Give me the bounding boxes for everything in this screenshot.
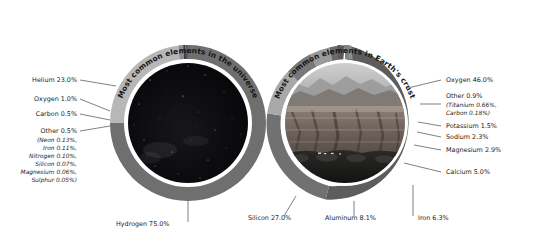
leader-oxygen bbox=[408, 80, 441, 88]
leader-magnesium bbox=[414, 145, 441, 150]
svg-text:Silicon 0.07%,: Silicon 0.07%, bbox=[35, 161, 77, 167]
leader-potassium bbox=[418, 122, 441, 126]
label-crust-calcium: Calcium 5.0% bbox=[446, 168, 490, 176]
label-crust-magnesium: Magnesium 2.9% bbox=[446, 146, 501, 154]
infographic-root: Most common elements in the universe Hel… bbox=[0, 0, 533, 237]
svg-text:Iron 0.11%,: Iron 0.11%, bbox=[43, 145, 77, 151]
leader-sodium bbox=[417, 132, 441, 137]
svg-text:Sulphur 0.05%): Sulphur 0.05%) bbox=[31, 177, 77, 184]
label-universe-other: Other 0.5% bbox=[41, 127, 77, 135]
leader-calcium bbox=[404, 163, 441, 172]
svg-text:(Neon 0.13%,: (Neon 0.13%, bbox=[37, 137, 77, 143]
svg-text:Carbon 0.18%): Carbon 0.18%) bbox=[446, 110, 490, 116]
universe-space-disc bbox=[128, 63, 248, 183]
label-universe-carbon: Carbon 0.5% bbox=[36, 110, 77, 118]
universe-chart: Most common elements in the universe Hel… bbox=[21, 45, 266, 228]
label-crust-aluminum: Aluminum 8.1% bbox=[325, 214, 376, 222]
leader-oxygen bbox=[80, 99, 110, 111]
label-crust-other: Other 0.9% bbox=[446, 92, 482, 100]
leader-other bbox=[80, 126, 110, 131]
label-universe-hydrogen: Hydrogen 75.0% bbox=[116, 220, 169, 228]
svg-text:Nitrogen 0.10%,: Nitrogen 0.10%, bbox=[29, 153, 77, 160]
label-crust-silicon: Silicon 27.0% bbox=[248, 214, 291, 222]
leader-silicon bbox=[284, 196, 296, 216]
infographic-svg: Most common elements in the universe Hel… bbox=[0, 0, 533, 237]
label-universe-oxygen: Oxygen 1.0% bbox=[34, 95, 77, 103]
label-crust-other-breakdown: (Titanium 0.66%, Carbon 0.18%) bbox=[446, 102, 497, 116]
label-crust-potassium: Potassium 1.5% bbox=[446, 122, 497, 130]
label-universe-helium: Helium 23.0% bbox=[32, 76, 77, 84]
label-universe-other-breakdown: (Neon 0.13%, Iron 0.11%, Nitrogen 0.10%,… bbox=[21, 137, 78, 184]
svg-text:Magnesium 0.06%,: Magnesium 0.06%, bbox=[21, 169, 78, 176]
label-crust-iron: Iron 6.3% bbox=[418, 214, 449, 222]
label-crust-sodium: Sodium 2.3% bbox=[446, 133, 488, 141]
svg-text:(Titanium 0.66%,: (Titanium 0.66%, bbox=[446, 102, 497, 108]
label-crust-oxygen: Oxygen 46.0% bbox=[446, 76, 493, 84]
leader-carbon bbox=[80, 114, 110, 120]
crust-chart: Most common elements in Earth's crust Ox… bbox=[248, 45, 501, 222]
leader-helium bbox=[80, 80, 116, 86]
